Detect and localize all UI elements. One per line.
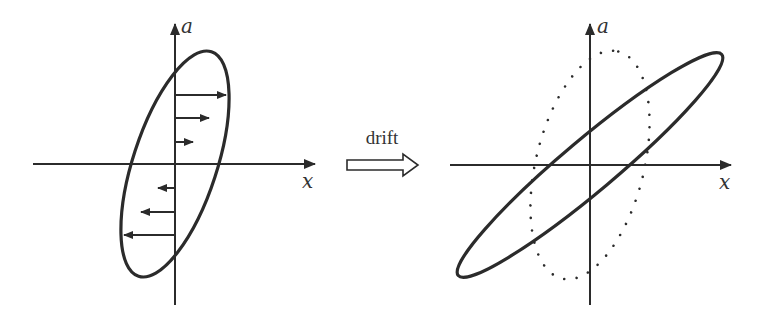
right-panel: a x [442,14,739,305]
drift-label: drift [366,127,399,148]
drift-transition: drift [347,127,418,176]
x-axis-label: x [302,169,313,193]
drift-diagram: a x drift a x [0,0,764,320]
hollow-right-arrow-icon [347,154,418,176]
left-panel: a x [33,14,315,305]
a-axis-label: a [597,14,609,38]
a-axis-label: a [181,14,193,38]
x-axis-label: x [719,170,730,194]
